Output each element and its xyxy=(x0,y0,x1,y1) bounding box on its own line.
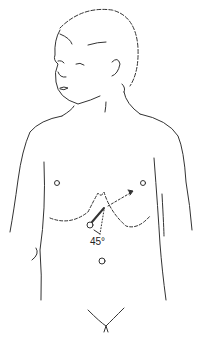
left-shoulder xyxy=(10,116,62,232)
angle-label: 45° xyxy=(90,236,105,247)
costal-margin xyxy=(50,192,150,227)
mouth xyxy=(60,87,68,90)
right-nipple xyxy=(141,181,146,186)
right-shoulder xyxy=(140,114,192,230)
head-outline xyxy=(60,9,138,86)
left-nipple xyxy=(55,181,60,186)
eye xyxy=(76,63,84,65)
face-outline xyxy=(54,30,100,104)
ear xyxy=(112,59,120,76)
direction-arrow xyxy=(108,192,132,206)
anatomical-diagram xyxy=(0,0,199,346)
navel xyxy=(99,258,105,264)
